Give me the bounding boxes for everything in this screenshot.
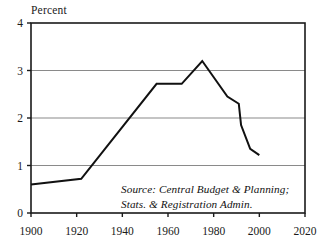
- chart-container: Percent 01234 19001920194019601980200020…: [0, 0, 326, 249]
- source-note-line-1: Source: Central Budget & Planning;: [121, 182, 289, 196]
- x-tick-label: 1900: [11, 225, 51, 238]
- x-tick-label: 1920: [57, 225, 97, 238]
- y-tick-label: 0: [5, 207, 23, 219]
- plot-svg: [0, 0, 326, 249]
- y-tick-label: 1: [5, 160, 23, 172]
- x-tick-label: 1960: [148, 225, 188, 238]
- x-tick-label: 1980: [194, 225, 234, 238]
- x-tick-label: 1940: [102, 225, 142, 238]
- y-tick-label: 4: [5, 17, 23, 29]
- x-tick-label: 2020: [285, 225, 325, 238]
- x-tick-label: 2000: [239, 225, 279, 238]
- source-note-line-2: Stats. & Registration Admin.: [121, 197, 253, 211]
- y-tick-label: 3: [5, 65, 23, 77]
- y-tick-label: 2: [5, 112, 23, 124]
